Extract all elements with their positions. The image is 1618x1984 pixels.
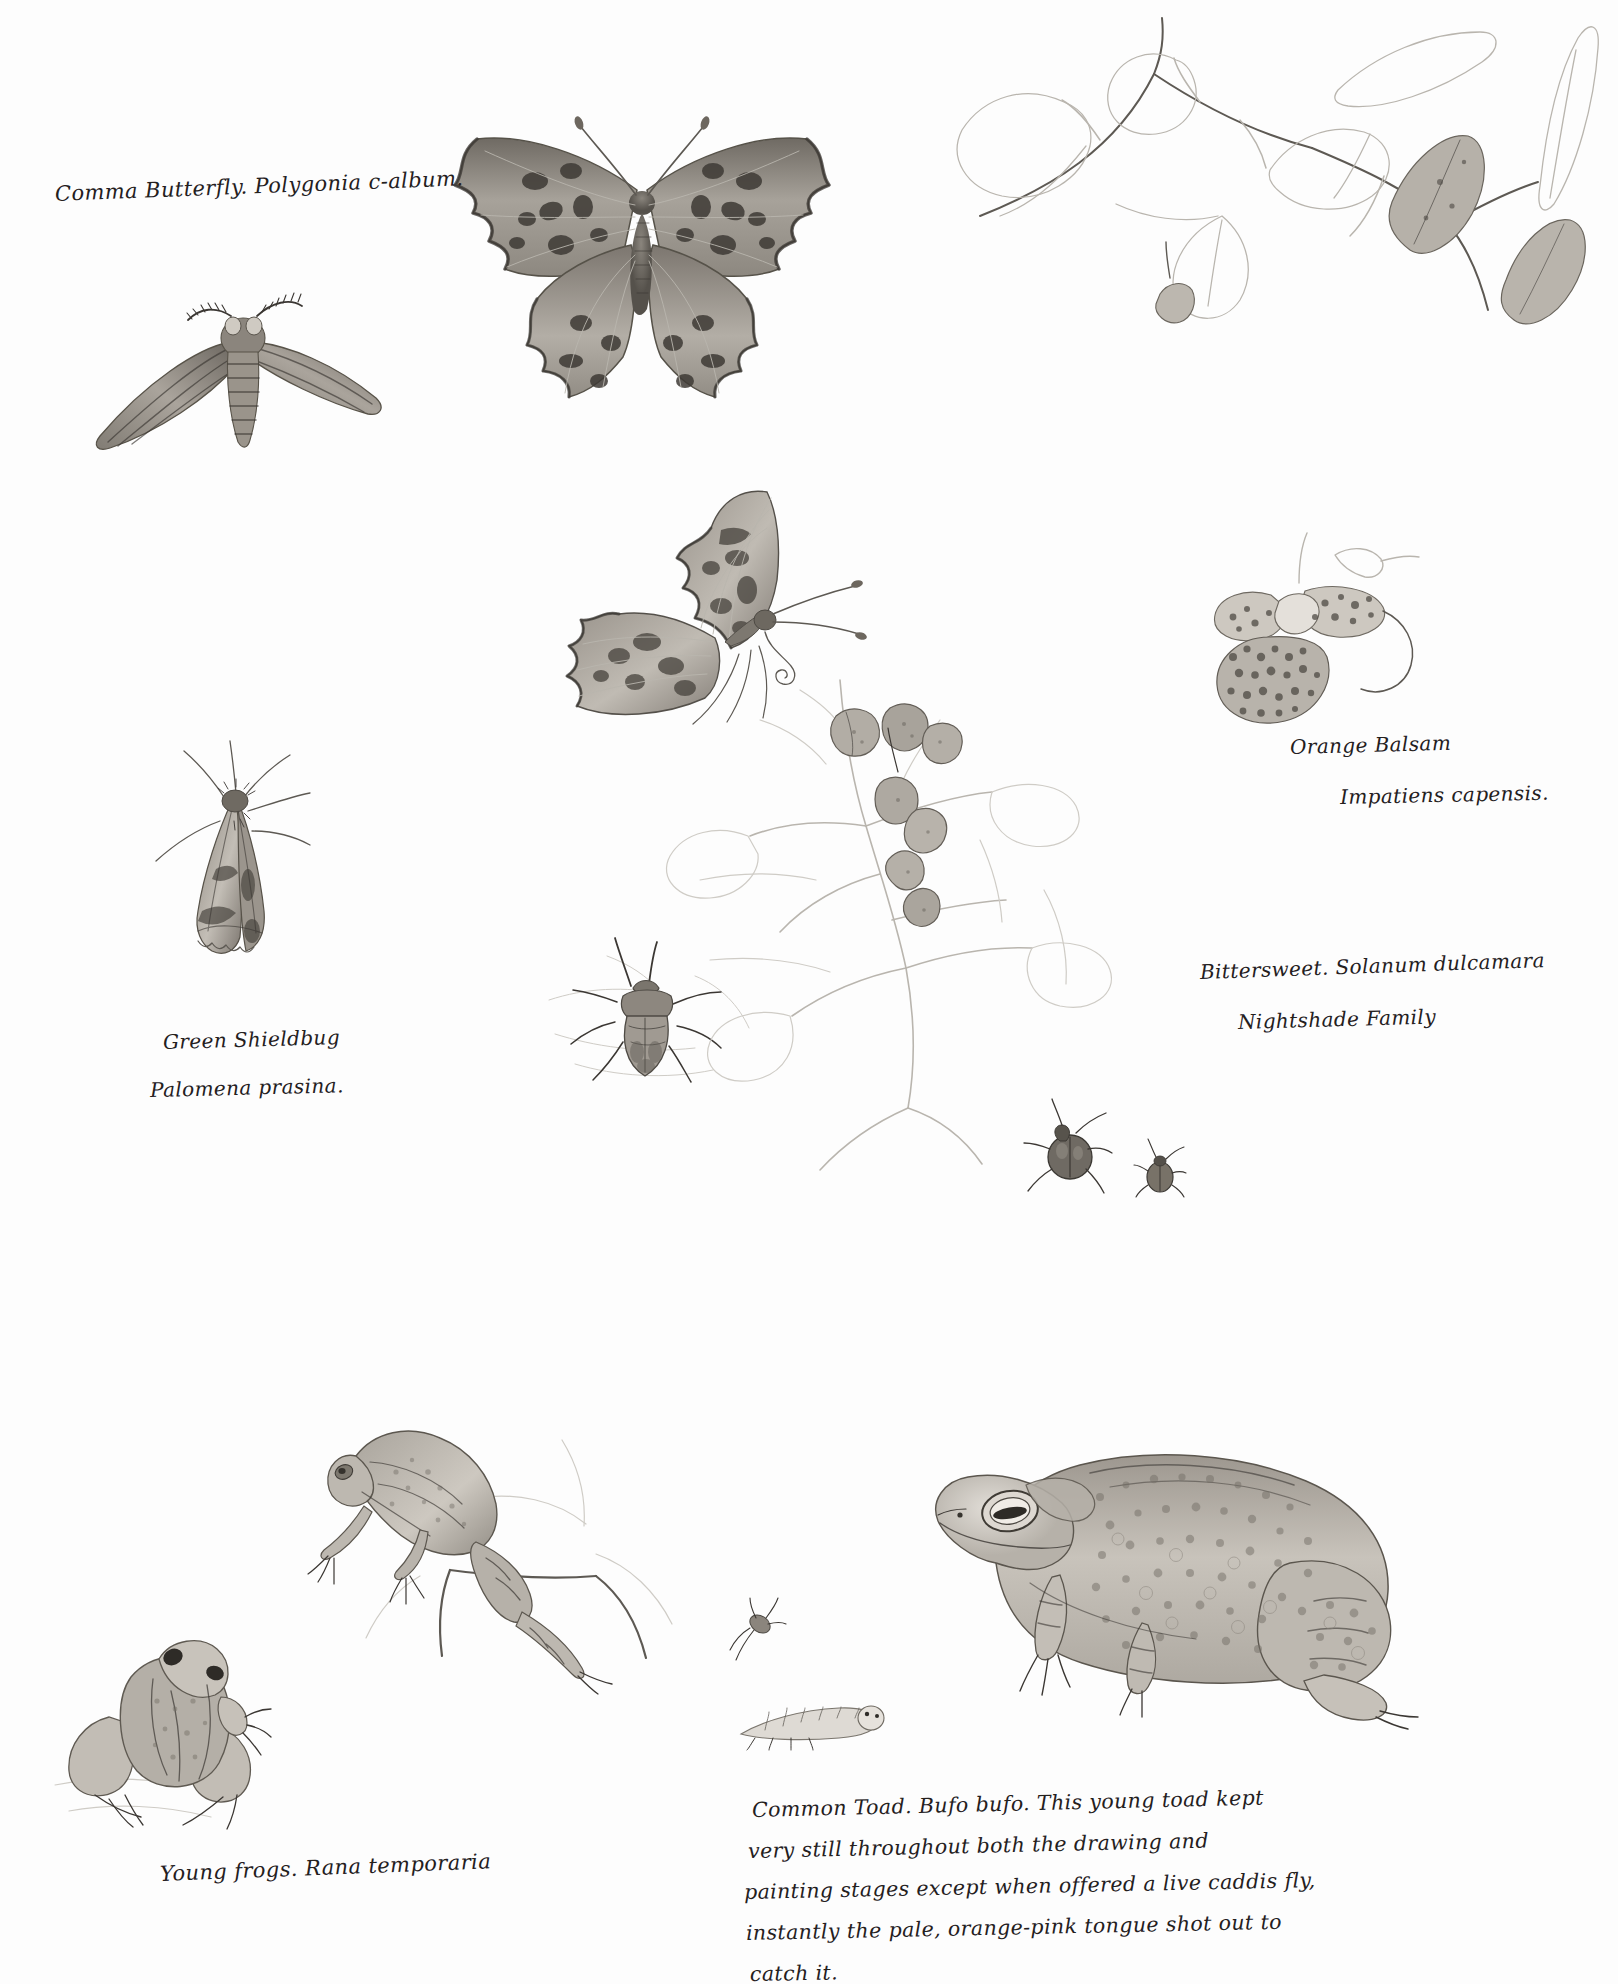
caption-bittersweet-line2: Nightshade Family [1238, 1004, 1437, 1034]
hawk-moth-drawing [80, 290, 400, 470]
caption-shieldbug-line2: Palomena prasina. [150, 1073, 344, 1102]
bittersweet-beetles-drawing [1020, 1105, 1200, 1215]
comma-butterfly-dorsal-drawing [385, 95, 885, 415]
caption-orange-balsam-line1: Orange Balsam [1290, 731, 1452, 759]
orange-balsam-sprig-drawing [940, 10, 1600, 440]
caddis-larva-drawing [735, 1690, 895, 1750]
caption-orange-balsam-line2: Impatiens capensis. [1340, 781, 1549, 809]
resting-moth-drawing [140, 735, 330, 985]
caption-shieldbug-line1: Green Shieldbug [163, 1025, 341, 1054]
small-insect-drawing [728, 1598, 788, 1668]
common-toad-drawing [910, 1415, 1420, 1735]
climbing-frog-drawing [300, 1380, 680, 1680]
sitting-frog-drawing [55, 1605, 315, 1845]
sketchbook-page: Comma Butterfly. Polygonia c-album. [0, 0, 1618, 1984]
caption-toad-note-line5: catch it. [750, 1952, 839, 1984]
caption-young-frogs: Young frogs. Rana temporaria [160, 1849, 492, 1886]
bittersweet-sprig-drawing [640, 660, 1280, 1180]
